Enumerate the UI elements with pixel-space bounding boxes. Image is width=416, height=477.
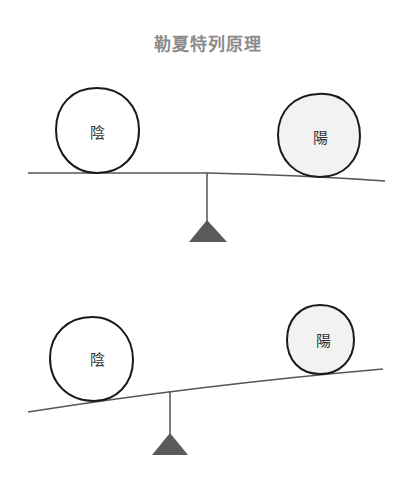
yang-label: 陽: [313, 129, 328, 147]
seesaw-balanced: 陰 陽: [28, 88, 385, 242]
yin-label: 陰: [90, 124, 105, 142]
yang-ball: 陽: [278, 94, 360, 177]
fulcrum-triangle: [152, 433, 188, 455]
seesaw-diagrams: 陰 陽 陰 陽: [0, 0, 416, 477]
yang-label: 陽: [316, 332, 331, 350]
seesaw-tilted: 陰 陽: [28, 305, 383, 455]
yin-ball: 陰: [56, 88, 139, 173]
yin-ball: 陰: [50, 317, 133, 401]
yin-label: 陰: [90, 351, 105, 369]
yang-ball: 陽: [287, 305, 354, 374]
fulcrum-triangle: [189, 220, 227, 242]
